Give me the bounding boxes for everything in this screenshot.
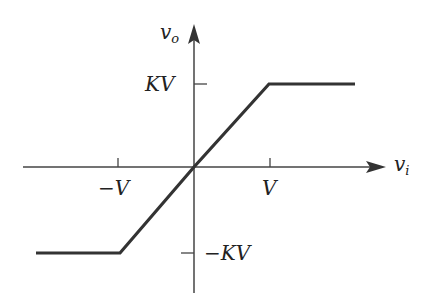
- tick-label-y-pos: KV: [145, 74, 174, 94]
- x-axis-label: vi: [394, 154, 409, 177]
- x-label-sub: i: [405, 163, 409, 178]
- transfer-characteristic-diagram: vo vi KV −V V −KV: [0, 0, 431, 305]
- transfer-curve: [36, 84, 355, 253]
- y-label-main: v: [160, 20, 171, 44]
- tick-label-y-neg: −KV: [204, 243, 250, 263]
- y-axis-label: vo: [160, 22, 179, 45]
- y-label-sub: o: [171, 31, 179, 46]
- x-label-main: v: [394, 152, 405, 176]
- tick-label-x-pos: V: [262, 178, 276, 198]
- tick-label-x-neg: −V: [98, 178, 129, 198]
